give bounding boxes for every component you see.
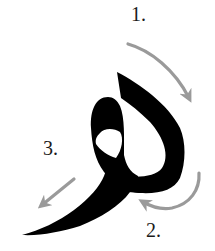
step-label-1: 1. — [131, 4, 146, 24]
step-label-2: 2. — [146, 220, 161, 240]
glyph-tail-stroke — [22, 160, 130, 235]
arrow-step-3 — [42, 179, 74, 205]
diagram-canvas — [0, 0, 215, 251]
stroke-order-diagram: 1. 2. 3. — [0, 0, 215, 251]
step-label-3: 3. — [43, 138, 58, 158]
